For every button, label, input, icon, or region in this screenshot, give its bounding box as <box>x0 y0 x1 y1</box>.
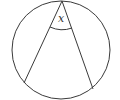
right-chord <box>62 1 93 89</box>
left-chord <box>24 1 62 83</box>
inscribed-angle-diagram: x <box>0 0 120 100</box>
angle-arc <box>50 27 72 30</box>
angle-label: x <box>58 12 65 25</box>
